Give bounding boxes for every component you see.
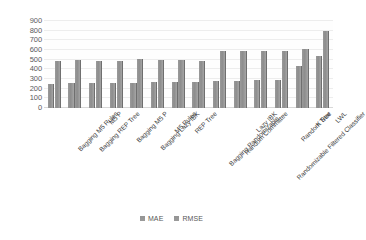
bar-rmse [302,49,308,108]
bar-group [250,21,271,108]
bar-mae [275,80,281,108]
y-tick-label-900: 900 [14,17,42,25]
bar-rmse [220,51,226,108]
bar-rmse [96,61,102,108]
bar-group [127,21,148,108]
x-axis-labels: Bagging M5 RulesBagging REP TreeM5 PBagg… [44,110,344,188]
x-axis-label: Randomizable Filtered Classifier [295,110,366,181]
bar-rmse [323,31,329,108]
y-tick-label-0: 0 [14,104,42,112]
legend-swatch-rmse [174,216,179,221]
bar-mae [296,66,302,108]
bar-rmse [75,60,81,108]
y-tick-label-200: 200 [14,85,42,93]
bar-mae [316,56,322,108]
bar-group [85,21,106,108]
bar-mae [213,81,219,108]
bar-rmse [261,51,267,108]
y-tick-label-800: 800 [14,27,42,35]
bar-mae [151,82,157,108]
bar-group [44,21,65,108]
x-axis-label: LWL [333,110,347,124]
y-axis: 9008007006005004003002001000 [14,16,42,113]
bar-rmse [178,60,184,108]
bar-mae [130,83,136,108]
y-tick-label-400: 400 [14,66,42,74]
y-tick-label-500: 500 [14,56,42,64]
bar-rmse [117,61,123,108]
bar-group [292,21,313,108]
bar-group [147,21,168,108]
bar-mae [110,83,116,108]
bar-group [106,21,127,108]
bar-group [230,21,251,108]
bar-rmse [282,51,288,108]
bars-layer [44,21,333,108]
bar-mae [192,82,198,108]
bar-group [209,21,230,108]
x-axis-label: K Star [314,110,332,128]
bar-mae [234,81,240,108]
legend-label: RMSE [182,215,203,222]
y-tick-label-700: 700 [14,37,42,45]
bar-rmse [137,59,143,108]
legend-swatch-mae [140,216,145,221]
legend-item-rmse[interactable]: RMSE [174,215,203,222]
bar-group [168,21,189,108]
bar-group [271,21,292,108]
bar-rmse [158,60,164,108]
bar-group [65,21,86,108]
bar-mae [172,82,178,108]
bar-rmse [199,61,205,108]
plot-frame [44,21,333,108]
legend-item-mae[interactable]: MAE [140,215,163,222]
y-tick-label-300: 300 [14,75,42,83]
y-tick-label-600: 600 [14,46,42,54]
chart-legend: MAERMSE [0,215,343,222]
legend-label: MAE [148,215,163,222]
y-tick-label-100: 100 [14,95,42,103]
bar-group [189,21,210,108]
bar-mae [48,84,54,108]
bar-rmse [240,51,246,108]
bar-mae [68,83,74,108]
bar-rmse [55,61,61,108]
bar-mae [254,80,260,108]
bar-group [312,21,333,108]
bar-mae [89,83,95,108]
